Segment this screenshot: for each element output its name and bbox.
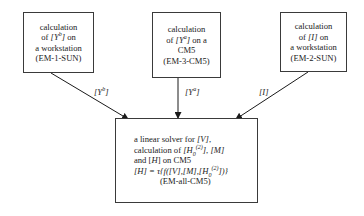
node-line: calculation [295, 21, 333, 32]
node-em2-sun: calculation of [I] on a workstation (EM-… [280, 12, 347, 72]
node-em-all-cm5: a linear solver for [V], calculation of … [115, 118, 258, 203]
node-formula: [H] = τ{f([V],[M],[H0(2)])} [134, 166, 228, 177]
arrow-em2-to-emall [236, 72, 308, 119]
node-line: and [H] on CM5 [134, 155, 191, 166]
node-em1-sun: calculation of [Yb] on a workstation (EM… [23, 12, 94, 73]
node-line: calculation of [H0(2)], [M] [134, 145, 224, 156]
node-line: a workstation [290, 42, 337, 53]
node-line: (EM-1-SUN) [36, 53, 82, 64]
edge-label-i: [I] [259, 87, 269, 97]
node-line: a workstation [35, 43, 82, 54]
arrow-em1-to-emall [51, 73, 128, 119]
edge-label-ya: [Ya] [185, 87, 199, 97]
node-em3-cm5: calculation of [Ya] on a CM5 (EM-3-CM5) [152, 12, 221, 78]
node-line: of [Yb] on [41, 32, 76, 43]
node-line: (EM-2-SUN) [291, 53, 337, 64]
node-line: (EM-3-CM5) [163, 56, 209, 67]
node-line: (EM-all-CM5) [134, 176, 211, 187]
edge-label-yb: [Yb] [94, 87, 108, 97]
node-line: of [I] on [299, 32, 329, 43]
node-line: CM5 [178, 45, 196, 56]
node-line: of [Ya] on a [166, 35, 207, 46]
